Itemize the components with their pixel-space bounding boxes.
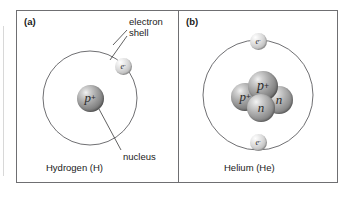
label-nucleus: nucleus <box>123 151 156 162</box>
label-electron-line1: electron <box>129 16 163 27</box>
panel-tag-b: (b) <box>186 16 198 27</box>
neutron-sphere: n <box>247 94 275 122</box>
electron-symbol: e- <box>250 134 267 151</box>
electron-symbol: e- <box>115 58 132 75</box>
proton-sphere: p+ <box>77 85 104 112</box>
electron-symbol: e- <box>250 33 267 50</box>
leader-line-electron-shell-0 <box>113 30 127 45</box>
electron-sphere: e- <box>250 33 267 50</box>
electron-sphere: e- <box>250 134 267 151</box>
caption-helium: Helium (He) <box>224 162 275 173</box>
label-electron-shell: electron shell <box>129 16 163 38</box>
proton-symbol: p+ <box>77 85 104 112</box>
electron-sphere: e- <box>115 58 132 75</box>
label-electron-line2: shell <box>129 27 149 38</box>
panel-tag-a: (a) <box>24 16 36 27</box>
leader-line-nucleus-0 <box>99 109 121 150</box>
neutron-symbol: n <box>247 94 275 122</box>
atomic-structure-figure: (a) (b) Hydrogen (H) Helium (He) electro… <box>0 0 356 197</box>
caption-hydrogen: Hydrogen (H) <box>46 162 103 173</box>
